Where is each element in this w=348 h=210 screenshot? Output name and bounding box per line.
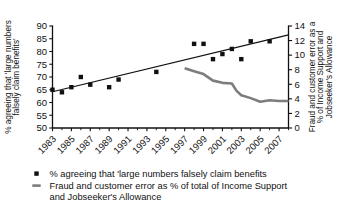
left-axis-tick-label: 50 bbox=[36, 122, 47, 133]
right-axis-tick-label: 4 bbox=[295, 93, 300, 104]
legend-marker-square bbox=[34, 171, 38, 175]
legend-label-text: and Jobseeker's Allowance bbox=[50, 192, 162, 202]
scatter-marker bbox=[116, 77, 120, 81]
fraud-error-line-path bbox=[185, 68, 289, 102]
left-axis-tick-label: 90 bbox=[36, 20, 47, 31]
scatter-marker bbox=[107, 85, 111, 89]
x-axis-tick-label: 1997 bbox=[168, 133, 191, 156]
scatter-marker bbox=[220, 52, 224, 56]
fraud-error-line-series bbox=[185, 68, 289, 102]
x-axis-tick-label: 1987 bbox=[73, 133, 96, 156]
left-axis-tick-label: 80 bbox=[36, 46, 47, 57]
x-axis-tick-label: 1983 bbox=[35, 133, 58, 156]
scatter-marker bbox=[249, 39, 253, 43]
scatter-marker bbox=[69, 85, 73, 89]
chart-legend: % agreeing that 'large numbers falsely c… bbox=[32, 169, 287, 202]
scatter-marker bbox=[201, 42, 205, 46]
left-axis-title-line: falsely claim benefits' bbox=[12, 38, 21, 116]
x-axis: 1983198519871989199119931995199719992001… bbox=[35, 128, 288, 156]
trend-line bbox=[53, 35, 289, 92]
x-axis-tick-label: 1991 bbox=[111, 133, 134, 156]
scatter-marker bbox=[267, 39, 271, 43]
x-axis-tick-label: 1995 bbox=[149, 133, 172, 156]
x-axis-tick-label: 2007 bbox=[262, 133, 285, 156]
left-axis-tick-label: 65 bbox=[36, 84, 47, 95]
fraud-perception-chart: % agreeing that 'large numbersfalsely cl… bbox=[0, 0, 348, 210]
left-axis-tick-label: 55 bbox=[36, 110, 47, 121]
scatter-marker bbox=[88, 82, 92, 86]
right-axis-tick-label: 10 bbox=[295, 49, 306, 60]
chart-container: % agreeing that 'large numbersfalsely cl… bbox=[0, 0, 348, 210]
right-axis-tick-label: 8 bbox=[295, 64, 300, 75]
scatter-marker bbox=[192, 42, 196, 46]
legend-label-text: % agreeing that 'large numbers falsely c… bbox=[50, 169, 268, 179]
scatter-marker bbox=[239, 57, 243, 61]
left-axis: 505560657075808590 bbox=[36, 20, 52, 133]
right-axis-title: Fraud and customer error as a% of Income… bbox=[308, 21, 334, 132]
x-axis-tick-label: 2005 bbox=[243, 133, 266, 156]
scatter-marker bbox=[60, 90, 64, 94]
scatter-marker bbox=[50, 88, 54, 92]
trend-line-path bbox=[53, 35, 289, 92]
x-axis-tick-label: 2003 bbox=[224, 133, 247, 156]
right-axis-tick-label: 12 bbox=[295, 35, 306, 46]
left-axis-tick-label: 60 bbox=[36, 97, 47, 108]
left-axis-tick-label: 75 bbox=[36, 59, 47, 70]
right-axis-tick-label: 2 bbox=[295, 108, 300, 119]
x-axis-tick-label: 1985 bbox=[54, 133, 77, 156]
x-axis-tick-label: 1989 bbox=[92, 133, 115, 156]
scatter-marker bbox=[79, 75, 83, 79]
x-axis-tick-label: 1993 bbox=[130, 133, 153, 156]
x-axis-tick-label: 1999 bbox=[186, 133, 209, 156]
left-axis-tick-label: 85 bbox=[36, 33, 47, 44]
right-axis: 02468101214 bbox=[289, 20, 306, 133]
scatter-marker bbox=[154, 70, 158, 74]
x-axis-tick-label: 2001 bbox=[205, 133, 228, 156]
right-axis-tick-label: 6 bbox=[295, 79, 300, 90]
scatter-marker bbox=[230, 47, 234, 51]
right-axis-tick-label: 14 bbox=[295, 20, 306, 31]
right-axis-tick-label: 0 bbox=[295, 122, 300, 133]
scatter-marker bbox=[211, 57, 215, 61]
left-axis-title: % agreeing that 'large numbersfalsely cl… bbox=[4, 20, 22, 134]
legend-label-text: Fraud and customer error as % of total o… bbox=[50, 181, 288, 191]
left-axis-tick-label: 70 bbox=[36, 71, 47, 82]
right-axis-title-line: Jobseeker's Allowance bbox=[325, 35, 334, 118]
